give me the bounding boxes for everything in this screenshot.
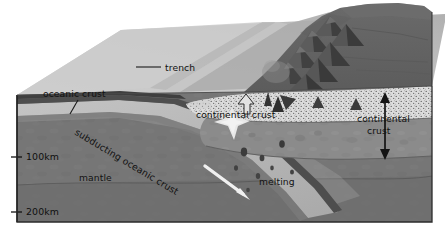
depth-label-200km: 200km xyxy=(26,206,59,217)
trench-label: trench xyxy=(165,62,195,73)
oceanic-crust-label: oceanic crust xyxy=(43,88,106,99)
cross-section-face xyxy=(17,86,432,222)
diagram-canvas: 100km 200km trench oceanic crust subduct… xyxy=(0,0,445,237)
melting-label: melting xyxy=(259,176,295,187)
continental-crust-label-center: continental crust xyxy=(196,109,276,120)
depth-label-100km: 100km xyxy=(26,151,59,162)
subduction-zone-diagram: 100km 200km trench oceanic crust subduct… xyxy=(0,0,445,237)
mantle-label: mantle xyxy=(79,172,112,183)
